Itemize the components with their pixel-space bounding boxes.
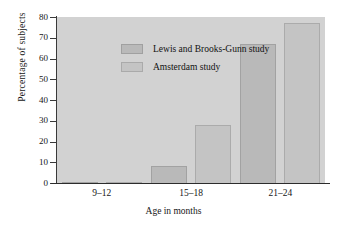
legend-swatch [121,62,143,72]
x-axis-line [51,183,330,184]
y-axis-tick-label: 20 [8,137,48,146]
x-axis-tick-label: 21–24 [245,188,315,199]
y-axis-tick [50,79,57,80]
bar [195,125,231,183]
bar [284,23,320,183]
legend-swatch [121,44,143,54]
y-axis-tick [50,100,57,101]
legend-label: Lewis and Brooks-Gunn study [153,44,269,55]
y-axis-tick [50,59,57,60]
x-axis-tick-label: 9–12 [67,188,137,199]
y-axis-tick-label: 40 [8,96,48,105]
plot-area: Lewis and Brooks-Gunn studyAmsterdam stu… [57,17,325,183]
y-axis-tick-label: 50 [8,75,48,84]
legend-item: Amsterdam study [121,59,269,75]
bar [151,166,187,183]
x-axis-title: Age in months [0,206,347,216]
y-axis-tick-label: 60 [8,54,48,63]
bar-chart-figure: Percentage of subjects 01020304050607080… [0,0,347,229]
y-axis-tick-label: 30 [8,116,48,125]
legend-item: Lewis and Brooks-Gunn study [121,41,269,57]
y-axis-tick [50,38,57,39]
y-axis-tick-label: 10 [8,158,48,167]
y-axis-tick [50,121,57,122]
x-axis-tick-label: 15–18 [156,188,226,199]
y-axis-tick-label: 70 [8,33,48,42]
y-axis-tick [50,162,57,163]
y-axis-tick-label: 80 [8,13,48,22]
y-axis-tick [50,142,57,143]
y-axis-tick-label: 0 [8,179,48,188]
chart-legend: Lewis and Brooks-Gunn studyAmsterdam stu… [121,41,269,77]
y-axis-tick [50,17,57,18]
legend-label: Amsterdam study [153,62,220,73]
